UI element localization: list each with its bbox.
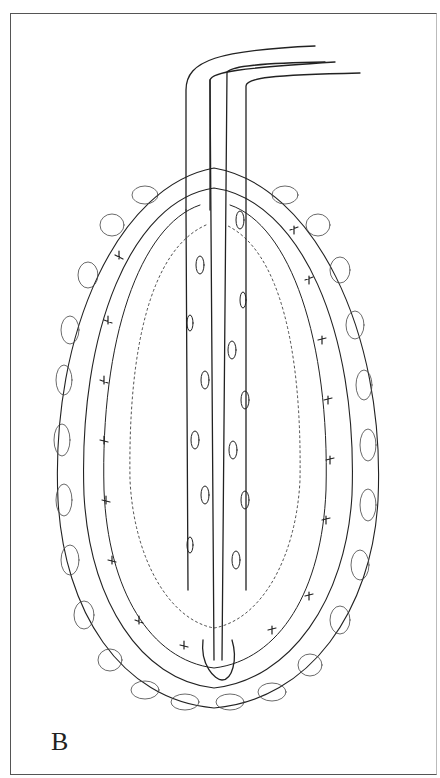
outer-tissue-ring — [54, 168, 379, 710]
panel-label: B — [51, 727, 68, 757]
wound-margin — [104, 205, 327, 668]
surgical-illustration — [0, 0, 440, 778]
tube-perforations — [187, 211, 249, 569]
drain-tubes — [186, 46, 360, 680]
